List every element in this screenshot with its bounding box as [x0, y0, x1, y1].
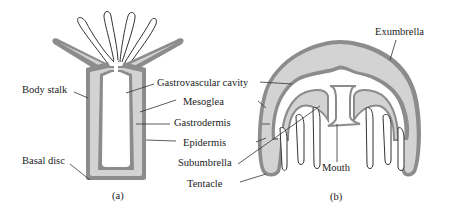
label-basal-disc: Basal disc [22, 156, 65, 167]
label-gastrodermis: Gastrodermis [174, 118, 231, 129]
label-exumbrella: Exumbrella [375, 27, 424, 38]
caption-panel-a: (a) [112, 191, 124, 202]
polyp-gastrovascular-cavity [102, 72, 130, 167]
label-gastrovascular-cavity: Gastrovascular cavity [157, 78, 248, 89]
polyp-diagram [52, 12, 183, 181]
caption-panel-b: (b) [330, 192, 342, 203]
diagram-canvas: Body stalk Basal disc Gastrovascular cav… [0, 0, 453, 215]
label-tentacle: Tentacle [187, 179, 222, 190]
label-body-stalk: Body stalk [22, 85, 67, 96]
label-mesoglea: Mesoglea [183, 97, 224, 108]
medusa-diagram [258, 40, 421, 177]
label-mouth: Mouth [322, 163, 350, 174]
label-epidermis: Epidermis [183, 138, 226, 149]
label-subumbrella: Subumbrella [178, 158, 232, 169]
